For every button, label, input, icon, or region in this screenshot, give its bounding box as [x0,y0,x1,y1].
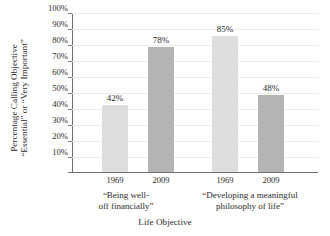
bar-value-label: 42% [95,94,135,103]
y-tick-mark [68,125,72,126]
gridline [72,77,318,78]
x-axis-group-labels: “Being well- off financially” “Developin… [66,190,324,216]
y-tick-label: 60% [30,68,68,77]
x-axis-title: Life Objective [0,218,330,227]
bar-group2-2009 [258,95,284,172]
y-tick-label: 70% [30,52,68,61]
y-tick-mark [68,45,72,46]
y-tick-mark [68,157,72,158]
x-axis-year-labels: 1969 2009 1969 2009 [72,176,318,188]
x-group-label-1-line-1: “Being well- [103,190,149,200]
y-axis-title-line-1: Percentage Calling Objective [9,44,19,152]
bar-group1-2009 [148,47,174,172]
x-year-label: 2009 [139,176,183,185]
bar-group1-1969 [102,105,128,172]
x-group-label-2-line-2: philosophy of life” [216,201,284,211]
x-year-label: 1969 [203,176,247,185]
y-tick-label: 50% [30,84,68,93]
y-tick-label: 10% [30,148,68,157]
bar-value-label: 78% [141,36,181,45]
y-tick-mark [68,61,72,62]
y-axis-tick-labels: 100% 90% 80% 70% 60% 50% 40% 30% 20% 10% [30,8,68,173]
y-tick-label: 40% [30,100,68,109]
gridline [72,29,318,30]
y-tick-mark [68,77,72,78]
y-tick-label: 80% [30,36,68,45]
x-group-label-1-line-2: off financially” [98,201,153,211]
y-axis-title-line-2: “Essential” or “Very Important” [19,39,29,157]
bar-value-label: 85% [205,25,245,34]
x-group-label-2-line-1: “Developing a meaningful [202,190,297,200]
bar-value-label: 48% [251,84,291,93]
plot-area: 42% 78% 85% 48% [72,13,318,172]
x-group-label-1: “Being well- off financially” [76,190,176,211]
y-tick-label: 100% [30,4,68,13]
gridline [72,45,318,46]
x-axis-line [68,172,318,173]
y-tick-label: 30% [30,116,68,125]
y-tick-mark [68,93,72,94]
x-year-label: 1969 [93,176,137,185]
gridline [72,13,318,14]
y-tick-label: 20% [30,132,68,141]
y-tick-mark [68,13,72,14]
bar-group2-1969 [212,36,238,172]
y-tick-mark [68,29,72,30]
y-tick-label: 90% [30,20,68,29]
x-year-label: 2009 [249,176,293,185]
bar-chart: Percentage Calling Objective “Essential”… [0,0,330,236]
gridline [72,61,318,62]
y-tick-mark [68,109,72,110]
x-group-label-2: “Developing a meaningful philosophy of l… [176,190,324,211]
y-tick-mark [68,141,72,142]
